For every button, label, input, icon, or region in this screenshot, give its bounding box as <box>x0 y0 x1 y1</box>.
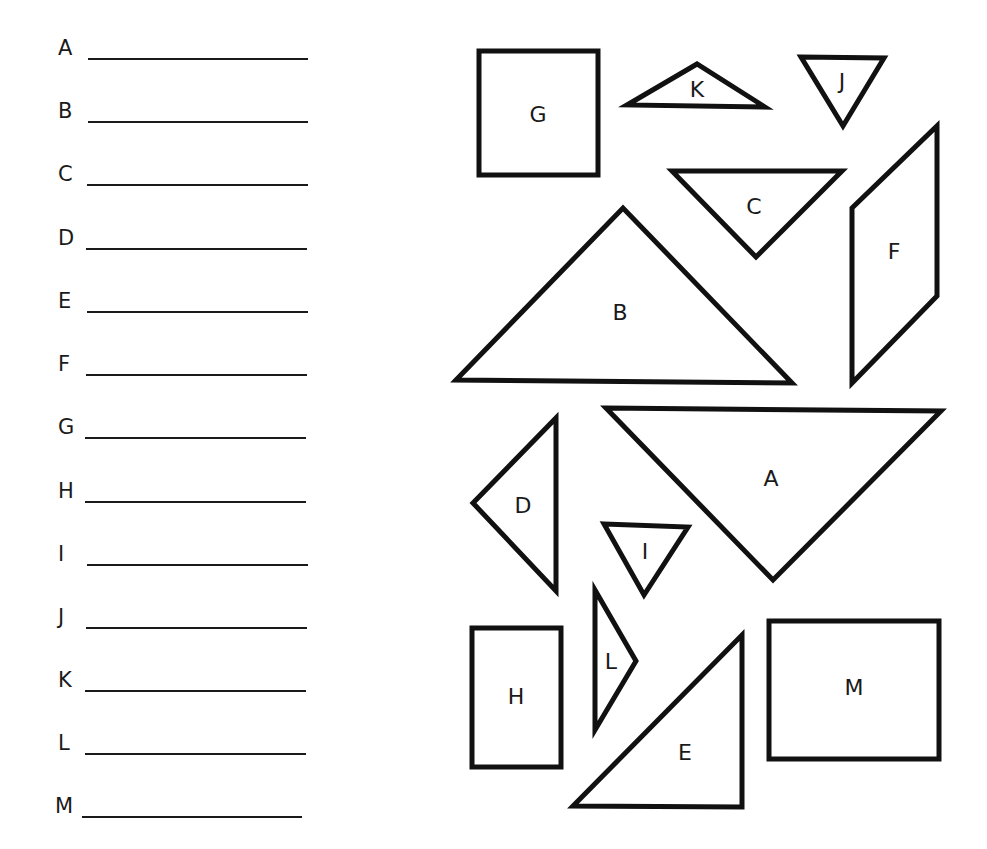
shape-label: D <box>515 493 532 518</box>
shape-j-triangle: J <box>801 57 884 126</box>
shape-m-rectangle: M <box>769 621 939 759</box>
shape-l-triangle: L <box>595 590 636 730</box>
shape-i-triangle: I <box>604 524 688 595</box>
shape-g-square: G <box>479 51 598 175</box>
shape-label: A <box>763 466 778 491</box>
shape-label: J <box>837 69 846 94</box>
shape-c-triangle: C <box>672 171 842 257</box>
shape-label: M <box>845 675 864 700</box>
shape-label: C <box>746 194 761 219</box>
shape-h-rectangle: H <box>472 628 561 767</box>
shape-label: I <box>642 539 649 564</box>
shape-d-triangle: D <box>473 418 556 591</box>
shape-label: F <box>888 239 901 264</box>
shape-label: K <box>690 77 705 102</box>
shape-label: G <box>529 102 546 127</box>
shapes-canvas: G K J C F B D A I L H E <box>0 0 987 849</box>
shape-label: E <box>678 740 692 765</box>
shape-label: B <box>612 300 627 325</box>
shape-k-triangle: K <box>627 64 765 107</box>
shape-f-parallelogram: F <box>852 126 937 383</box>
shape-label: H <box>508 684 525 709</box>
shape-label: L <box>605 649 618 674</box>
